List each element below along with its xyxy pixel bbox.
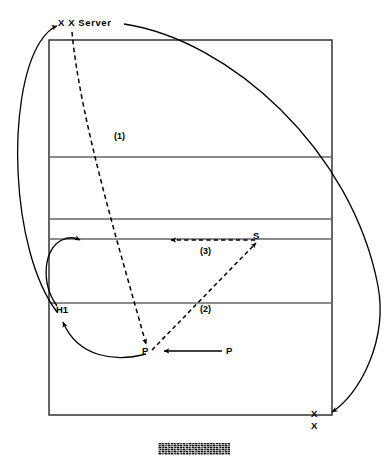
left-loop-curve [46, 238, 80, 306]
redacted-caption-bar [158, 443, 230, 455]
volleyball-play-diagram: X X Server (1) (2) (3) S H1 P P X X [0, 0, 388, 462]
passer-source-label: P [226, 346, 232, 356]
serve-path-1 [72, 32, 146, 344]
passer-target-label: P [142, 346, 148, 356]
phase-1-label: (1) [114, 132, 125, 141]
long-right-curve [124, 24, 380, 412]
long-left-curve [18, 26, 57, 312]
phase-3-label: (3) [200, 247, 211, 256]
pass-path-2 [152, 243, 256, 350]
x-marker-top-label: X [311, 409, 317, 419]
hitter-transition-curve [63, 322, 146, 357]
setter-label: S [253, 231, 259, 241]
hitter-label: H1 [56, 305, 68, 315]
x-marker-bottom-label: X [311, 421, 317, 431]
court-and-paths-svg [0, 0, 388, 462]
phase-2-label: (2) [200, 305, 211, 314]
server-label: X X Server [58, 18, 112, 28]
court-outline [49, 40, 332, 415]
